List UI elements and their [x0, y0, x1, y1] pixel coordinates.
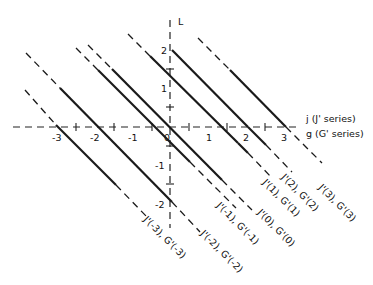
y-tick-label: -1 — [155, 160, 164, 171]
x-tick-label: -2 — [90, 132, 99, 143]
line-n2 — [172, 50, 292, 172]
horizontal-axis-label-g: g (G' series) — [306, 128, 364, 139]
x-tick-label: 3 — [281, 132, 287, 143]
correlation-diagram: -3 -2 -1 0 1 2 3 2 1 -1 -2 L j (J' serie… — [0, 0, 373, 285]
y-tick-label: 1 — [161, 83, 167, 94]
x-tick-label: -1 — [128, 132, 137, 143]
line-label-n-3: J'(-3), G'(-3) — [141, 213, 189, 261]
line-n3 — [198, 38, 322, 163]
x-tick-label: 2 — [243, 132, 249, 143]
vertical-axis-label: L — [178, 16, 184, 27]
y-tick-label: -2 — [155, 199, 164, 210]
x-tick-label: -3 — [52, 132, 61, 143]
line-label-n-1: J'(-1), G'(-1) — [214, 199, 262, 247]
line-label-n3: J'(3), G'(3) — [316, 181, 359, 224]
horizontal-axis-label-j: j (J' series) — [305, 113, 356, 124]
y-tick-label: 2 — [161, 45, 167, 56]
line-n-3 — [25, 90, 148, 218]
x-tick-label: 1 — [206, 132, 212, 143]
line-label-n-2: J'(-2), G'(-2) — [198, 227, 246, 275]
